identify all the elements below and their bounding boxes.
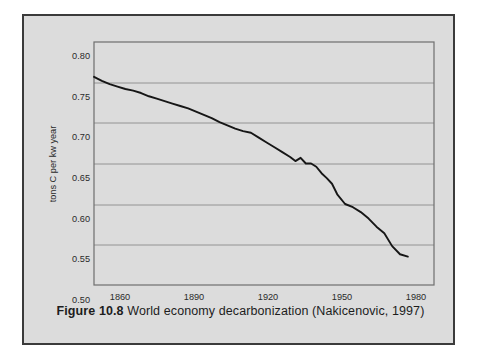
y-tick-label: 0.75: [72, 92, 90, 102]
y-tick-label: 0.60: [72, 214, 90, 224]
gridlines: [94, 83, 434, 245]
y-axis-tick-labels: 0.80 0.75 0.70 0.65 0.60 0.55 0.50: [72, 51, 90, 305]
plot-frame: [94, 42, 434, 285]
x-tick-label: 1950: [332, 292, 352, 302]
y-tick-label: 0.80: [72, 51, 90, 61]
x-axis-tick-labels: 1860 1890 1920 1950 1980: [110, 292, 426, 302]
x-tick-label: 1860: [110, 292, 130, 302]
x-tick-label: 1920: [258, 292, 278, 302]
figure-caption: Figure 10.8 World economy decarbonizatio…: [24, 304, 457, 318]
x-tick-label: 1980: [406, 292, 426, 302]
y-axis-title: tons C per kw year: [48, 126, 58, 203]
figure-caption-number: Figure 10.8: [57, 304, 124, 318]
figure-panel: 0.80 0.75 0.70 0.65 0.60 0.55 0.50 1860 …: [22, 14, 455, 345]
decarbonization-line-chart: 0.80 0.75 0.70 0.65 0.60 0.55 0.50 1860 …: [24, 16, 457, 306]
y-tick-label: 0.70: [72, 132, 90, 142]
y-tick-label: 0.65: [72, 173, 90, 183]
figure-caption-text: World economy decarbonization (Nakicenov…: [127, 304, 424, 318]
x-tick-label: 1890: [184, 292, 204, 302]
data-series-line: [94, 77, 408, 257]
chart-area: 0.80 0.75 0.70 0.65 0.60 0.55 0.50 1860 …: [24, 16, 457, 306]
y-tick-label: 0.55: [72, 254, 90, 264]
